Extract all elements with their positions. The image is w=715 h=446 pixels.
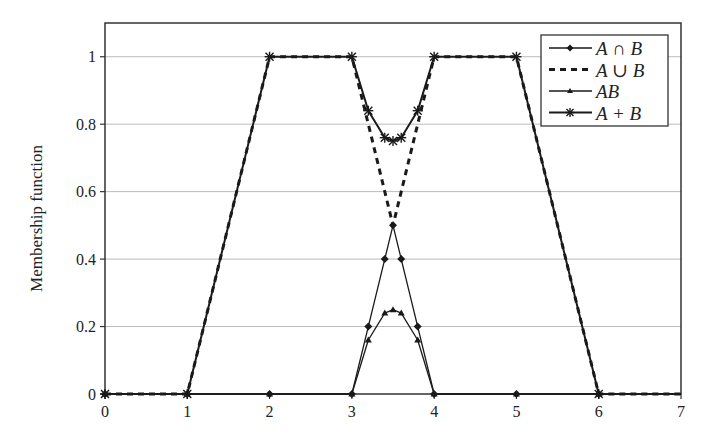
y-tick-label: 0.8 (76, 116, 96, 133)
legend-label: A ∪ B (594, 60, 645, 81)
x-axis-ticks: 01234567 (101, 394, 685, 420)
y-axis-ticks: 00.20.40.60.81 (76, 48, 105, 402)
diamond-marker (381, 255, 389, 263)
legend-label: AB (594, 81, 620, 102)
x-tick-label: 6 (595, 403, 603, 420)
star-marker (100, 389, 110, 399)
x-tick-label: 2 (266, 403, 274, 420)
diamond-marker (414, 323, 422, 331)
x-tick-label: 3 (348, 403, 356, 420)
star-marker (511, 52, 521, 62)
legend-label: A + B (594, 103, 642, 124)
x-tick-label: 7 (677, 403, 685, 420)
star-marker (429, 52, 439, 62)
y-axis-title: Membership function (27, 145, 46, 292)
star-marker (594, 389, 604, 399)
y-tick-label: 0.2 (76, 318, 96, 335)
star-marker (363, 106, 373, 116)
star-marker (566, 108, 575, 117)
x-tick-label: 1 (183, 403, 191, 420)
y-tick-label: 0.6 (76, 183, 96, 200)
x-tick-label: 0 (101, 403, 109, 420)
legend-label: A ∩ B (594, 38, 642, 59)
legend: A ∩ BA ∪ BABA + B (541, 35, 668, 126)
y-tick-label: 1 (88, 48, 96, 65)
diamond-marker (364, 323, 372, 331)
star-marker (347, 52, 357, 62)
x-tick-label: 5 (512, 403, 520, 420)
membership-function-chart: 00.20.40.60.81 01234567 Membership funct… (0, 0, 715, 446)
diamond-marker (397, 255, 405, 263)
y-tick-label: 0 (88, 386, 96, 403)
star-marker (182, 389, 192, 399)
triangle-marker (390, 306, 397, 312)
star-marker (413, 106, 423, 116)
x-tick-label: 4 (430, 403, 438, 420)
star-marker (265, 52, 275, 62)
y-tick-label: 0.4 (76, 251, 96, 268)
series-ab (102, 306, 682, 396)
star-marker (396, 133, 406, 143)
